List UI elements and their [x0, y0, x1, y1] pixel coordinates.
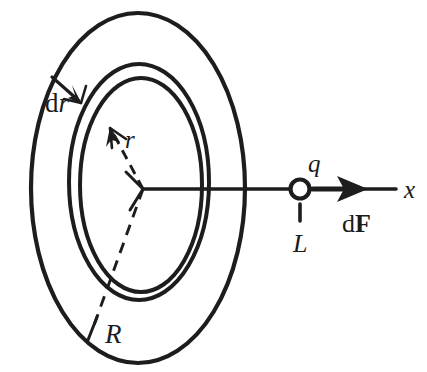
annulus-force-diagram: dr r R q L dF x [0, 0, 427, 372]
radius-R-endcap [88, 317, 97, 340]
hub-spoke-upper [126, 172, 143, 189]
label-q: q [308, 150, 321, 177]
label-dF-F: F [355, 209, 371, 238]
label-dF-d: d [342, 209, 355, 238]
radius-R-dashed [93, 189, 143, 328]
label-L: L [292, 229, 307, 258]
label-dr: dr [45, 88, 70, 118]
label-r: r [125, 126, 135, 153]
label-dr-d: d [45, 88, 59, 118]
label-dF: dF [342, 209, 371, 238]
hub-spoke-lower [130, 189, 143, 210]
physics-figure-canvas: dr r R q L dF x [0, 0, 427, 372]
label-R: R [104, 319, 122, 349]
dr-arrow-barb-upper [81, 86, 86, 103]
label-dr-r: r [59, 88, 70, 118]
charge-marker [291, 180, 310, 199]
label-x-axis: x [403, 176, 415, 203]
